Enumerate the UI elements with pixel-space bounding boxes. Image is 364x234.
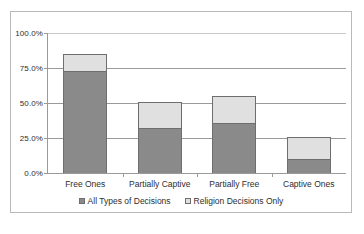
bar-segment-all-types-of-decisions: [212, 123, 256, 173]
bar-segment-religion-decisions-only: [138, 102, 182, 129]
plot-area: 0.0%25.0%50.0%75.0%100.0%Free OnesPartia…: [47, 33, 346, 174]
chart-figure: 0.0%25.0%50.0%75.0%100.0%Free OnesPartia…: [0, 0, 364, 234]
bar-segment-all-types-of-decisions: [287, 159, 331, 173]
legend-entry-religion-only: Religion Decisions Only: [185, 196, 284, 206]
bar-segment-religion-decisions-only: [63, 54, 107, 71]
chart-legend: All Types of Decisions Religion Decision…: [10, 196, 352, 206]
x-axis-tick-label: Free Ones: [65, 179, 105, 189]
x-axis-tick-mark: [123, 173, 124, 177]
legend-entry-all-types: All Types of Decisions: [79, 196, 171, 206]
y-axis-tick-label: 50.0%: [20, 99, 43, 108]
bar-stack: [138, 102, 182, 173]
gridline: [48, 33, 346, 34]
x-axis-tick-label: Partially Captive: [129, 179, 190, 189]
bar-stack: [287, 137, 331, 173]
y-axis-tick-label: 75.0%: [20, 64, 43, 73]
x-axis-tick-label: Captive Ones: [283, 179, 335, 189]
y-axis-tick-mark: [44, 173, 48, 174]
legend-swatch-icon: [79, 198, 85, 204]
bar-segment-religion-decisions-only: [212, 96, 256, 123]
bar-stack: [63, 54, 107, 173]
legend-swatch-icon: [185, 198, 191, 204]
y-axis-tick-mark: [44, 138, 48, 139]
bar-segment-religion-decisions-only: [287, 137, 331, 159]
y-axis-tick-mark: [44, 103, 48, 104]
x-axis-tick-label: Partially Free: [209, 179, 259, 189]
x-axis-tick-mark: [197, 173, 198, 177]
y-axis-tick-mark: [44, 33, 48, 34]
bar-stack: [212, 96, 256, 173]
bar-segment-all-types-of-decisions: [63, 71, 107, 173]
y-axis-tick-label: 0.0%: [24, 169, 43, 178]
y-axis-tick-label: 25.0%: [20, 134, 43, 143]
x-axis-tick-mark: [272, 173, 273, 177]
y-axis-tick-label: 100.0%: [15, 29, 43, 38]
y-axis-tick-mark: [44, 68, 48, 69]
legend-entry-label: All Types of Decisions: [88, 196, 171, 206]
bar-segment-all-types-of-decisions: [138, 128, 182, 173]
legend-entry-label: Religion Decisions Only: [194, 196, 284, 206]
